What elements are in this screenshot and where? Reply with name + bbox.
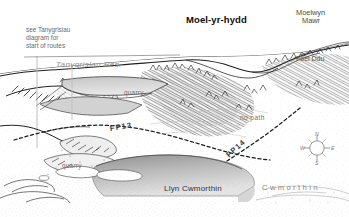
map-figure: Moel-yr-hydd Moelwyn Mawr Foel Ddu see T…: [0, 0, 349, 217]
leader-baseline: [24, 55, 180, 57]
terrain-drawing: [0, 0, 349, 217]
